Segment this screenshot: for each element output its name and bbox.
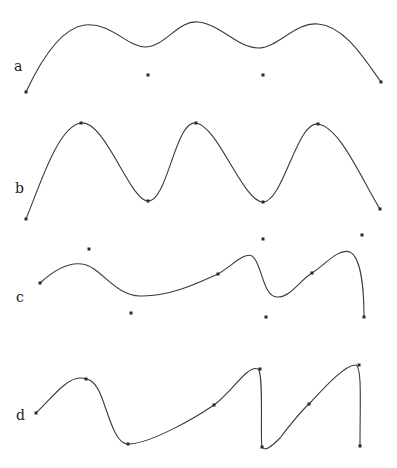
marker-d-1: [85, 378, 88, 381]
marker-d-2: [127, 443, 130, 446]
marker-d-3: [213, 404, 216, 407]
marker-c-8: [363, 316, 366, 319]
curve-b: [26, 123, 380, 219]
marker-a-3: [380, 81, 383, 84]
marker-a-1: [147, 74, 150, 77]
panel-label-b: b: [15, 181, 24, 195]
marker-d-0: [35, 412, 38, 415]
panel-d: [35, 364, 362, 449]
marker-b-0: [25, 218, 28, 221]
curve-a: [26, 22, 381, 92]
curve-c: [40, 251, 364, 317]
marker-c-3: [217, 273, 220, 276]
panel-c: [39, 234, 366, 319]
marker-c-7: [361, 234, 364, 237]
panel-label-d: d: [16, 408, 25, 422]
panel-a: [25, 22, 383, 94]
marker-c-0: [39, 282, 42, 285]
marker-a-2: [262, 74, 265, 77]
panel-b: [25, 122, 382, 221]
marker-a-0: [25, 91, 28, 94]
panel-label-c: c: [16, 290, 24, 304]
marker-b-6: [379, 208, 382, 211]
marker-b-1: [80, 122, 83, 125]
marker-b-2: [147, 200, 150, 203]
marker-d-8: [359, 445, 362, 448]
curves-canvas: [0, 0, 397, 468]
marker-c-6: [311, 272, 314, 275]
panel-label-a: a: [14, 59, 22, 73]
marker-d-4: [259, 368, 262, 371]
marker-b-5: [317, 123, 320, 126]
marker-c-4: [262, 238, 265, 241]
marker-d-5: [261, 446, 264, 449]
marker-c-1: [88, 248, 91, 251]
marker-c-5: [265, 316, 268, 319]
marker-b-3: [195, 122, 198, 125]
marker-b-4: [262, 201, 265, 204]
marker-d-7: [358, 364, 361, 367]
figure-curves: a b c d: [0, 0, 397, 468]
marker-c-2: [130, 312, 133, 315]
marker-d-6: [308, 403, 311, 406]
